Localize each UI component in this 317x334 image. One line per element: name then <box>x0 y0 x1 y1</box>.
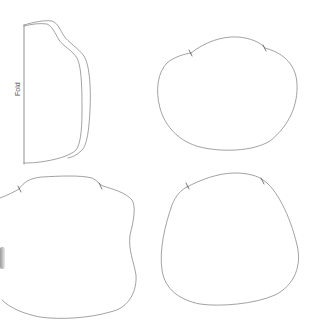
fold-label: Fold <box>14 82 21 96</box>
wavy-piece-bottom-left-outline <box>0 176 136 318</box>
round-piece-top-right-outline <box>158 37 297 150</box>
fold-pattern-piece <box>24 21 90 164</box>
round-pattern-piece-bottom-right <box>161 173 298 305</box>
scan-smudge <box>0 247 5 269</box>
round-pattern-piece-top-right <box>158 37 297 150</box>
fold-piece-inner-outline <box>24 24 82 163</box>
notch-mark <box>261 178 264 184</box>
round-piece-bottom-right-outline <box>161 173 298 305</box>
wavy-pattern-piece-bottom-left <box>0 176 136 318</box>
pattern-canvas <box>0 0 317 334</box>
